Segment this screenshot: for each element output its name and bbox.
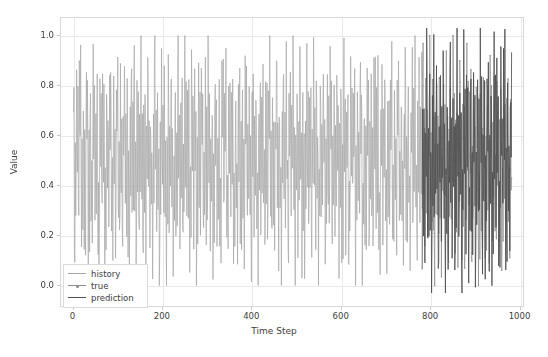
y-tick-mark <box>57 185 60 186</box>
y-tick-label-text: 0.0 <box>40 280 54 290</box>
y-tick-label-text: 1.0 <box>40 30 54 40</box>
legend-label: true <box>91 280 108 292</box>
figure: 02004006008001000 0.00.20.40.60.81.0 Tim… <box>0 0 548 357</box>
x-tick-label: 600 <box>333 311 349 321</box>
x-tick-label: 400 <box>243 311 259 321</box>
legend-item-prediction[interactable]: prediction <box>67 292 143 304</box>
legend-swatch-icon <box>67 269 87 279</box>
y-tick-mark <box>57 35 60 36</box>
x-tick-label: 800 <box>422 311 438 321</box>
y-tick-mark <box>57 85 60 86</box>
legend-label: history <box>91 268 120 280</box>
y-axis-label: Value <box>9 150 19 175</box>
x-axis-label: Time Step <box>0 326 548 336</box>
legend-swatch-icon <box>67 281 87 291</box>
y-tick-mark <box>57 135 60 136</box>
y-tick-mark <box>57 235 60 236</box>
legend-item-true[interactable]: true <box>67 280 143 292</box>
x-tick-mark <box>162 307 163 310</box>
x-tick-mark <box>520 307 521 310</box>
x-tick-mark <box>430 307 431 310</box>
legend[interactable]: historytrueprediction <box>63 264 148 308</box>
legend-item-history[interactable]: history <box>67 268 143 280</box>
x-tick-label: 200 <box>154 311 170 321</box>
y-tick-mark <box>57 285 60 286</box>
x-tick-mark <box>341 307 342 310</box>
y-tick-label-text: 0.8 <box>40 80 54 90</box>
x-tick-label: 0 <box>70 311 75 321</box>
legend-label: prediction <box>91 292 134 304</box>
y-tick-label-text: 0.2 <box>40 230 54 240</box>
x-tick-mark <box>251 307 252 310</box>
x-tick-label: 1000 <box>509 311 531 321</box>
y-tick-label-text: 0.4 <box>40 180 54 190</box>
legend-swatch-icon <box>67 293 87 303</box>
y-tick-label-text: 0.6 <box>40 130 54 140</box>
